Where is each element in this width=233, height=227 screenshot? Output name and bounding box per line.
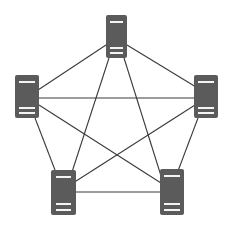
link-right-bottom-right: [178, 118, 198, 171]
link-top-left: [38, 45, 106, 90]
server-icon: [160, 169, 184, 215]
server-icon: [15, 75, 39, 118]
server-right: [194, 75, 218, 118]
server-bottom-left: [51, 170, 76, 215]
network-diagram: [0, 0, 233, 227]
server-icon: [51, 170, 76, 215]
link-top-bottom-left: [72, 58, 109, 172]
server-icon: [194, 75, 218, 118]
server-top: [106, 15, 127, 58]
server-left: [15, 75, 39, 118]
link-left-bottom-left: [35, 118, 55, 170]
servers-layer: [15, 15, 218, 215]
link-top-bottom-right: [124, 58, 162, 179]
server-icon: [106, 15, 127, 58]
server-bottom-right: [160, 169, 184, 215]
link-top-right: [127, 45, 196, 87]
